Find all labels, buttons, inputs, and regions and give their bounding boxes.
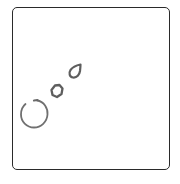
sketch-drawing	[0, 0, 180, 184]
large-open-circle-shape	[21, 101, 48, 128]
medium-blob-shape	[52, 85, 63, 97]
small-teardrop-shape	[69, 65, 80, 78]
large-circle-tick	[34, 100, 38, 101]
drawing-canvas	[0, 0, 180, 184]
